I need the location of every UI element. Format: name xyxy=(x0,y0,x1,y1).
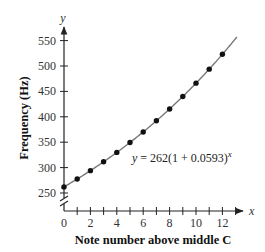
y-tick-label: 400 xyxy=(38,110,56,124)
data-point xyxy=(207,66,212,71)
x-tick-label: 2 xyxy=(87,216,93,230)
x-axis-letter: x xyxy=(248,204,255,218)
x-tick-label: 0 xyxy=(61,216,67,230)
x-tick-label: 8 xyxy=(167,216,173,230)
data-point xyxy=(154,118,159,123)
data-point xyxy=(180,94,185,99)
y-tick-label: 450 xyxy=(38,84,56,98)
equation-label: y = 262(1 + 0.0593)x xyxy=(131,149,232,165)
data-point xyxy=(127,140,132,145)
data-point xyxy=(167,106,172,111)
y-axis-title: Frequency (Hz) xyxy=(17,76,31,159)
y-tick-label: 550 xyxy=(38,34,56,48)
x-tick-label: 12 xyxy=(216,216,228,230)
y-tick-label: 250 xyxy=(38,186,56,200)
data-point xyxy=(193,80,198,85)
y-tick-label: 350 xyxy=(38,135,56,149)
data-point xyxy=(75,176,80,181)
x-tick-label: 4 xyxy=(114,216,120,230)
chart: 250300350400450500550024681012 yxNote nu… xyxy=(0,0,265,252)
data-point xyxy=(101,159,106,164)
x-tick-label: 10 xyxy=(190,216,202,230)
data-point xyxy=(220,52,225,57)
y-tick-label: 300 xyxy=(38,161,56,175)
data-point xyxy=(114,150,119,155)
data-points xyxy=(61,52,225,190)
data-point xyxy=(61,184,66,189)
x-tick-label: 6 xyxy=(140,216,146,230)
data-point xyxy=(141,129,146,134)
x-axis-title: Note number above middle C xyxy=(75,233,232,247)
axes: 250300350400450500550024681012 xyxy=(38,27,243,230)
y-axis-letter: y xyxy=(59,11,66,25)
data-point xyxy=(88,168,93,173)
fit-curve xyxy=(61,37,237,189)
y-tick-label: 500 xyxy=(38,59,56,73)
